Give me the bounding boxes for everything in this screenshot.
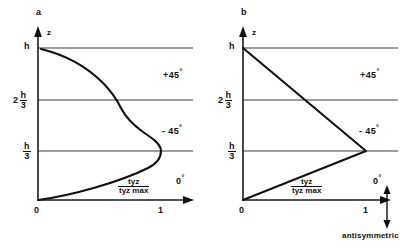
panel-a-zone-middle-text: - 45 — [162, 126, 179, 136]
panel-a-zone-upper-text: +45 — [163, 70, 179, 80]
panel-a-xtick-0: 0 — [34, 206, 39, 215]
antisymmetric-arrow-down-icon — [384, 220, 391, 229]
panel-b-ytick-2h3: 2h3 — [218, 91, 232, 110]
panel-a-zone-lower-degree: ° — [181, 174, 184, 181]
figure-root: a z h 2h3 h3 0 1 tyztyz max +45° - 45° 0… — [0, 0, 418, 251]
panel-a-zone-upper-degree: ° — [179, 68, 182, 75]
panel-a-zone-label-lower: 0° — [176, 174, 185, 186]
panel-b-zone-upper-text: +45 — [360, 70, 376, 80]
antisymmetric-label: antisymmetric — [342, 232, 399, 240]
panel-a-letter: a — [36, 8, 41, 17]
panel-a-y-axis-arrow-icon — [34, 26, 42, 37]
panel-b-ytick-h3: h3 — [228, 142, 236, 161]
panel-b-zone-upper-degree: ° — [376, 68, 379, 75]
panel-b-ytick-h: h — [229, 42, 235, 51]
panel-b-zone-label-upper: +45° — [360, 68, 380, 80]
panel-a-x-axis-denominator: tyz max — [118, 187, 149, 195]
panel-a-zone-label-upper: +45° — [163, 68, 183, 80]
panel-b-x-axis-label: tyztyz max — [291, 178, 322, 195]
panel-a-zone-middle-degree: ° — [179, 124, 182, 131]
panel-a-x-axis-arrow-icon — [183, 196, 194, 204]
panel-a-ytick-2h3: 2h3 — [13, 91, 27, 110]
panel-a-ytick-h: h — [24, 42, 30, 51]
panel-b-xtick-1: 1 — [363, 206, 368, 215]
panel-a-y-axis-label: z — [47, 29, 51, 37]
panel-a-ytick-h3-denominator: 3 — [23, 152, 31, 161]
panel-b-letter: b — [241, 8, 247, 17]
panel-b-ytick-h3-denominator: 3 — [228, 152, 236, 161]
panel-b-y-axis-label: z — [252, 29, 256, 37]
panel-a-x-axis-label: tyztyz max — [118, 178, 149, 195]
panel-b-x-axis-arrow-icon — [380, 196, 391, 204]
panel-a-zone-label-middle: - 45° — [162, 124, 182, 136]
panel-a-ytick-h3: h3 — [23, 142, 31, 161]
panel-b-zone-lower-degree: ° — [378, 174, 381, 181]
panel-b-zone-middle-degree: ° — [376, 124, 379, 131]
panel-b-zone-middle-text: - 45 — [359, 126, 376, 136]
panel-a-xtick-1: 1 — [158, 206, 163, 215]
antisymmetric-arrow-up-icon — [384, 185, 391, 194]
panel-b-xtick-0: 0 — [239, 206, 244, 215]
panel-b-zone-label-lower: 0° — [373, 174, 382, 186]
panel-b-y-axis-arrow-icon — [239, 26, 247, 37]
panel-a-ytick-2h3-denominator: 3 — [20, 101, 28, 110]
panel-b-ytick-2h3-denominator: 3 — [225, 101, 233, 110]
panel-a-plot — [0, 0, 418, 251]
panel-b-zone-label-middle: - 45° — [359, 124, 379, 136]
panel-b-x-axis-denominator: tyz max — [291, 187, 322, 195]
